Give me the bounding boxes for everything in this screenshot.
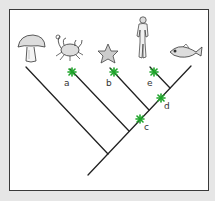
label-e: e <box>147 78 153 88</box>
mushroom-icon <box>18 35 45 62</box>
marker-c <box>136 115 144 123</box>
label-c: c <box>144 122 149 132</box>
human-icon <box>137 17 148 58</box>
label-a: a <box>64 78 70 88</box>
marker-b <box>110 68 118 76</box>
label-d: d <box>164 101 170 111</box>
cladogram: a b e d c <box>0 0 215 201</box>
label-b: b <box>106 78 112 88</box>
crab-icon <box>56 35 83 61</box>
marker-e <box>150 68 158 76</box>
starfish-icon <box>98 44 118 63</box>
marker-a <box>68 68 76 76</box>
fish-icon <box>170 44 202 57</box>
